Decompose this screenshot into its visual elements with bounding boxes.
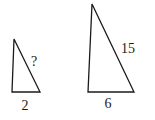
large-base-label: 6 [105, 97, 112, 111]
large-hypotenuse-label: 15 [121, 42, 135, 56]
small-base-label: 2 [22, 99, 29, 113]
small-hypotenuse-label: ? [31, 55, 37, 69]
